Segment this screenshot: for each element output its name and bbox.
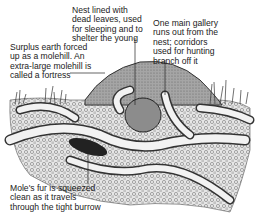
label-main-gallery: One main gallery runs out from the nest;… [153, 19, 218, 66]
burrow-diagram: Nest lined with dead leaves, used for sl… [0, 0, 257, 219]
label-nest: Nest lined with dead leaves, used for sl… [72, 6, 143, 44]
label-molehill: Surplus earth forced up as a molehill. A… [10, 43, 91, 81]
label-mole-fur: Mole's fur is squeezed clean as it trave… [10, 184, 101, 212]
molehill-mound [85, 61, 222, 105]
nest-chamber [125, 98, 161, 132]
